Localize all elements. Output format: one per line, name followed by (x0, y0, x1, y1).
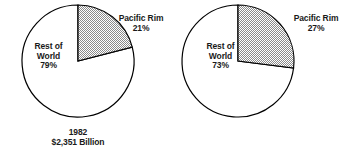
caption-amount-1982: $2,351 Billion (18, 137, 138, 147)
pacific-rim-name-1992: Pacific Rim (294, 13, 339, 23)
rest-of-world-percent-1992: 73% (197, 61, 244, 71)
chart-panel-1992: Pacific Rim 27% Rest of World 73% 1992 $… (177, 0, 354, 156)
pacific-rim-percent-1992: 27% (281, 24, 351, 34)
chart-caption-1982: 1982 $2,351 Billion (18, 127, 138, 147)
slice-label-rest-of-world-1992: Rest of World 73% (197, 42, 244, 71)
rest-of-world-percent-1982: 79% (25, 61, 72, 71)
slice-label-pacific-rim-1982: Pacific Rim 21% (110, 14, 172, 33)
caption-year-1982: 1982 (69, 127, 88, 137)
rest-of-world-name-line1-1992: Rest of (206, 41, 234, 51)
chart-panel-1982: Pacific Rim 21% Rest of World 79% 1982 $… (0, 0, 177, 156)
slice-label-pacific-rim-1992: Pacific Rim 27% (281, 14, 351, 33)
rest-of-world-name-line1-1982: Rest of (34, 41, 62, 51)
pacific-rim-percent-1982: 21% (110, 24, 172, 34)
pie-chart-figure: Pacific Rim 21% Rest of World 79% 1982 $… (0, 0, 354, 156)
slice-label-rest-of-world-1982: Rest of World 79% (25, 42, 72, 71)
pacific-rim-name-1982: Pacific Rim (119, 13, 164, 23)
